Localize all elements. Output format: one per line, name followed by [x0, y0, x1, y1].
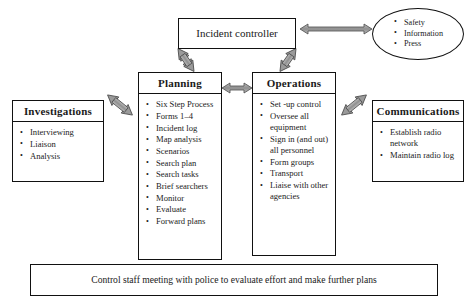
investigations-title: Investigations [13, 101, 103, 122]
bottom-bar-label: Control staff meeting with police to eva… [31, 265, 437, 295]
media-ellipse-list: Safety Information Press [393, 18, 443, 51]
node-bottom-bar: Control staff meeting with police to eva… [30, 264, 438, 296]
list-item: Form groups [259, 157, 331, 168]
list-item: Evaluate [145, 204, 217, 215]
list-item: Oversee all equipment [259, 111, 331, 133]
list-item: Six Step Process [145, 99, 217, 110]
list-item: Establish radio network [379, 127, 459, 149]
planning-title: Planning [139, 73, 221, 94]
list-item: Sign in (and out) all personnel [259, 134, 331, 156]
arrow-controller-to-media [300, 24, 372, 34]
node-planning: Planning Six Step Process Forms 1–4 Inci… [138, 72, 222, 260]
node-investigations: Investigations Interviewing Liaison Anal… [12, 100, 104, 182]
list-item: Interviewing [19, 127, 99, 138]
list-item: Search plan [145, 158, 217, 169]
list-item: Liaison [19, 139, 99, 150]
diagram-canvas: Incident controller Safety Information P… [0, 0, 468, 307]
list-item: Scenarios [145, 146, 217, 157]
list-item: Incident log [145, 123, 217, 134]
operations-list: Set -up control Oversee all equipment Si… [259, 99, 331, 202]
list-item: Analysis [19, 151, 99, 162]
communications-list: Establish radio network Maintain radio l… [379, 127, 459, 161]
arrow-operations-to-communications [338, 91, 370, 120]
list-item: Press [393, 39, 443, 49]
list-item: Search tasks [145, 169, 217, 180]
list-item: Liaise with other agencies [259, 180, 331, 202]
node-media-ellipse: Safety Information Press [372, 8, 464, 60]
list-item: Information [393, 29, 443, 39]
arrow-planning-to-investigations [104, 91, 136, 120]
node-incident-controller: Incident controller [178, 18, 296, 49]
list-item: Maintain radio log [379, 150, 459, 161]
list-item: Brief searchers [145, 181, 217, 192]
node-operations: Operations Set -up control Oversee all e… [252, 72, 336, 256]
investigations-list: Interviewing Liaison Analysis [19, 127, 99, 162]
operations-body: Set -up control Oversee all equipment Si… [253, 94, 335, 206]
operations-title: Operations [253, 73, 335, 94]
arrow-controller-to-planning [173, 45, 198, 74]
incident-controller-label: Incident controller [179, 19, 295, 48]
communications-body: Establish radio network Maintain radio l… [373, 122, 463, 165]
investigations-body: Interviewing Liaison Analysis [13, 122, 103, 165]
list-item: Map analysis [145, 134, 217, 145]
arrow-controller-to-operations [275, 45, 300, 74]
planning-body: Six Step Process Forms 1–4 Incident log … [139, 94, 221, 231]
communications-title: Communications [373, 101, 463, 122]
list-item: Monitor [145, 193, 217, 204]
list-item: Safety [393, 18, 443, 28]
list-item: Set -up control [259, 99, 331, 110]
node-communications: Communications Establish radio network M… [372, 100, 464, 182]
list-item: Transport [259, 168, 331, 179]
list-item: Forms 1–4 [145, 111, 217, 122]
planning-list: Six Step Process Forms 1–4 Incident log … [145, 99, 217, 227]
arrow-planning-to-operations [222, 83, 252, 93]
list-item: Forward plans [145, 216, 217, 227]
